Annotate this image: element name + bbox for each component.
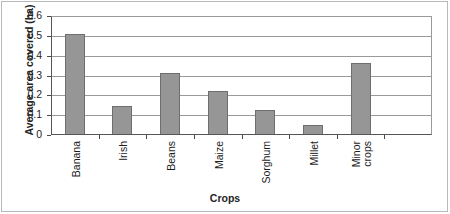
gridline bbox=[51, 36, 432, 37]
x-axis-title: Crops bbox=[0, 192, 450, 204]
x-axis-tick bbox=[289, 135, 290, 139]
bar bbox=[65, 34, 85, 135]
y-axis-tick bbox=[47, 95, 51, 96]
gridline bbox=[51, 115, 432, 116]
y-axis-tick-label: 0.6 bbox=[0, 9, 42, 21]
x-axis-tick bbox=[242, 135, 243, 139]
y-axis-tick-label: 0.2 bbox=[0, 88, 42, 100]
x-axis-tick bbox=[146, 135, 147, 139]
x-axis-tick bbox=[337, 135, 338, 139]
y-axis-tick-label: 0.1 bbox=[0, 108, 42, 120]
x-axis-tick bbox=[384, 135, 385, 139]
y-axis-tick bbox=[47, 76, 51, 77]
bar bbox=[351, 63, 371, 135]
plot-area bbox=[51, 16, 432, 135]
bar bbox=[208, 91, 228, 135]
y-axis-tick-label: 0.4 bbox=[0, 49, 42, 61]
bar bbox=[112, 106, 132, 135]
bar bbox=[160, 73, 180, 135]
bar-chart-figure: Average area covered (ha) 00.10.20.30.40… bbox=[0, 0, 450, 214]
x-axis-tick bbox=[99, 135, 100, 139]
y-axis-tick bbox=[47, 115, 51, 116]
y-axis-tick-label: 0.3 bbox=[0, 69, 42, 81]
y-axis-tick bbox=[47, 135, 51, 136]
y-axis-tick-label: 0.5 bbox=[0, 29, 42, 41]
bar bbox=[303, 125, 323, 135]
y-axis-tick-label: 0 bbox=[0, 128, 42, 140]
y-axis-tick bbox=[47, 36, 51, 37]
y-axis-tick bbox=[47, 16, 51, 17]
gridline bbox=[51, 56, 432, 57]
y-axis-tick bbox=[47, 56, 51, 57]
gridline bbox=[51, 95, 432, 96]
bar bbox=[255, 110, 275, 135]
x-axis-tick bbox=[194, 135, 195, 139]
gridline bbox=[51, 76, 432, 77]
